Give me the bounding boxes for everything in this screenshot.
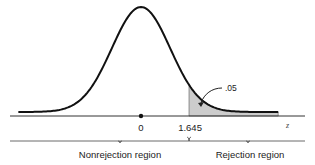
region-divider-tick — [187, 137, 191, 141]
tick-label-zero: 0 — [138, 122, 143, 133]
normal-curve — [18, 7, 278, 112]
normal-distribution-chart: 0 1.645 z .05 Nonrejection region Reject… — [0, 0, 315, 165]
tail-area-label: .05 — [225, 83, 237, 93]
rejection-region-label: Rejection region — [216, 149, 285, 160]
mean-marker — [139, 114, 143, 118]
nonrejection-region-label: Nonrejection region — [79, 149, 161, 160]
tick-label-critical: 1.645 — [178, 122, 202, 133]
axis-label-z: z — [285, 121, 290, 130]
